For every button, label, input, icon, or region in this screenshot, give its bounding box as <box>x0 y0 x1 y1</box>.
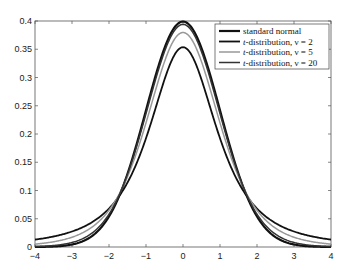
x-tick-label: 2 <box>254 251 259 261</box>
x-tick-label: −4 <box>30 251 40 261</box>
legend-label: standard normal <box>243 26 302 36</box>
y-tick-label: 0.35 <box>14 44 32 54</box>
y-tick-label: 0.05 <box>14 214 32 224</box>
legend-label: t-distribution, ν = 20 <box>243 58 318 68</box>
x-tick-label: −1 <box>141 251 151 261</box>
y-tick-label: 0 <box>27 242 32 252</box>
legend-label: t-distribution, ν = 5 <box>243 47 313 57</box>
y-tick-label: 0.1 <box>19 186 32 196</box>
y-tick-label: 0.15 <box>14 157 32 167</box>
y-tick-label: 0.3 <box>19 73 32 83</box>
y-tick-label: 0.2 <box>19 129 32 139</box>
x-tick-label: −3 <box>67 251 77 261</box>
x-tick-label: 1 <box>217 251 222 261</box>
x-tick-label: 3 <box>291 251 296 261</box>
legend-label: t-distribution, ν = 2 <box>243 37 313 47</box>
legend: standard normalt-distribution, ν = 2t-di… <box>215 24 329 69</box>
y-tick-label: 0.25 <box>14 101 32 111</box>
x-tick-label: −2 <box>104 251 114 261</box>
line-chart: −4−3−2−10123400.050.10.150.20.250.30.350… <box>0 0 348 270</box>
x-tick-label: 0 <box>180 251 185 261</box>
x-tick-label: 4 <box>328 251 333 261</box>
y-tick-label: 0.4 <box>19 16 32 26</box>
